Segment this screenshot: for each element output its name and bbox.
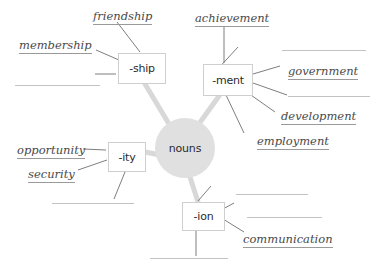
word-label-employment: employment [257, 135, 329, 150]
suffix-node-label: -ity [118, 151, 135, 164]
word-label-security: security [28, 168, 75, 183]
suffix-node-label: -ion [194, 210, 214, 223]
suffix-node-ment[interactable]: -ment [203, 64, 253, 96]
leader-line-ment-6 [253, 83, 287, 95]
blank-ship-1[interactable] [15, 85, 100, 86]
blank-ion-2[interactable] [247, 217, 322, 218]
suffix-node-ship[interactable]: -ship [118, 53, 166, 84]
leader-line-ship-1 [96, 50, 119, 60]
leader-line-ity-9 [83, 149, 106, 150]
word-label-development: development [281, 110, 356, 125]
center-node-label: nouns [169, 142, 201, 155]
leader-line-ment-5 [253, 66, 280, 74]
blank-ment-2[interactable] [288, 96, 370, 97]
leader-line-ity-10 [78, 160, 107, 170]
blank-ion-1[interactable] [236, 194, 308, 195]
blank-ity-1[interactable] [52, 203, 134, 204]
blank-ment-1[interactable] [282, 50, 366, 51]
branch-line-ion [190, 177, 198, 202]
mindmap-canvas: -ship-ment-ity-ion friendshipmembershipa… [0, 0, 381, 271]
word-label-friendship: friendship [93, 10, 152, 25]
suffix-node-ion[interactable]: -ion [182, 202, 225, 231]
word-label-government: government [288, 65, 358, 80]
leader-line-ship-0 [117, 22, 140, 52]
leader-line-ion-12 [198, 186, 211, 201]
leader-line-ion-14 [223, 219, 244, 232]
word-label-achievement: achievement [195, 12, 269, 27]
word-label-communication: communication [243, 233, 333, 248]
word-label-opportunity: opportunity [17, 144, 85, 159]
leader-line-ment-8 [226, 95, 244, 133]
center-node-nouns[interactable]: nouns [155, 118, 215, 178]
suffix-node-ity[interactable]: -ity [108, 142, 146, 172]
suffix-node-label: -ment [212, 74, 244, 87]
suffix-node-label: -ship [129, 62, 155, 75]
leader-line-ity-11 [114, 172, 125, 199]
blank-ion-3[interactable] [150, 258, 228, 259]
word-label-membership: membership [19, 39, 92, 54]
